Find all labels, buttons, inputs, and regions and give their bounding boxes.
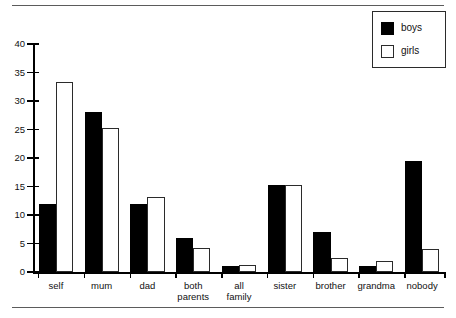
- chart-legend: boys girls: [372, 11, 446, 68]
- legend-item-boys: boys: [381, 19, 436, 37]
- y-axis-tick-label: 40: [3, 39, 25, 49]
- bar-boys-grandma: [359, 266, 376, 272]
- x-axis-tick: [38, 272, 40, 278]
- legend-label-girls: girls: [401, 46, 419, 56]
- x-axis-tick: [404, 272, 406, 278]
- x-axis-tick: [84, 272, 86, 278]
- y-axis-tick-label: 35: [3, 68, 25, 78]
- bar-girls-sister: [285, 185, 302, 272]
- bar-boys-self: [39, 204, 56, 272]
- x-axis-tick: [444, 272, 446, 278]
- y-axis-tick-label-wrap: 20: [0, 153, 25, 163]
- x-axis-label-both-parents: both parents: [170, 280, 216, 302]
- y-axis-tick-label-wrap: 30: [0, 96, 25, 106]
- x-axis-label-self: self: [33, 280, 79, 291]
- legend-label-boys: boys: [401, 23, 422, 33]
- y-axis-tick-label: 30: [3, 96, 25, 106]
- bar-girls-dad: [147, 197, 164, 272]
- y-axis-tick-label: 10: [3, 210, 25, 220]
- bar-girls-both-parents: [193, 248, 210, 272]
- bar-girls-grandma: [376, 261, 393, 272]
- y-axis-tick-label: 0: [3, 267, 25, 277]
- x-axis-tick: [267, 272, 269, 278]
- x-axis-label-all-family: all family: [216, 280, 262, 302]
- top-divider-rule: [12, 5, 444, 6]
- x-axis-label-brother: brother: [308, 280, 354, 291]
- bar-girls-self: [56, 82, 73, 272]
- x-axis-tick: [221, 272, 223, 278]
- x-axis-tick: [358, 272, 360, 278]
- bar-boys-both-parents: [176, 238, 193, 272]
- x-axis-tick: [130, 272, 132, 278]
- x-axis-label-mum: mum: [79, 280, 125, 291]
- y-axis-tick-label-wrap: 0: [0, 267, 25, 277]
- y-axis-tick-label-wrap: 40: [0, 39, 25, 49]
- bar-girls-all-family: [239, 265, 256, 272]
- bar-boys-brother: [313, 232, 330, 272]
- bar-boys-mum: [85, 112, 102, 272]
- y-axis-tick-label: 20: [3, 153, 25, 163]
- bar-boys-dad: [130, 204, 147, 272]
- legend-swatch-girls-icon: [381, 45, 394, 58]
- y-axis-tick-label-wrap: 15: [0, 182, 25, 192]
- bar-chart-figure: 0510152025303540 selfmumdadboth parentsa…: [0, 0, 456, 318]
- bar-boys-all-family: [222, 266, 239, 272]
- x-axis-line: [33, 272, 445, 274]
- y-axis-tick-label: 25: [3, 125, 25, 135]
- y-axis-tick-label-wrap: 10: [0, 210, 25, 220]
- y-axis-tick-label-wrap: 25: [0, 125, 25, 135]
- bar-girls-nobody: [422, 249, 439, 272]
- x-axis-label-grandma: grandma: [353, 280, 399, 291]
- y-axis-tick-label: 15: [3, 182, 25, 192]
- y-axis-tick-label: 5: [3, 239, 25, 249]
- bottom-divider-rule: [12, 307, 444, 308]
- bar-boys-sister: [268, 185, 285, 272]
- legend-item-girls: girls: [381, 42, 436, 60]
- x-axis-tick: [175, 272, 177, 278]
- bar-girls-mum: [102, 128, 119, 272]
- y-axis-tick-label-wrap: 35: [0, 68, 25, 78]
- bars-layer: [33, 44, 445, 272]
- x-axis-tick: [313, 272, 315, 278]
- x-axis-label-sister: sister: [262, 280, 308, 291]
- x-axis-label-dad: dad: [125, 280, 171, 291]
- bar-girls-brother: [331, 258, 348, 272]
- y-axis-tick-label-wrap: 5: [0, 239, 25, 249]
- bar-boys-nobody: [405, 161, 422, 272]
- legend-swatch-boys-icon: [381, 22, 394, 35]
- x-axis-label-nobody: nobody: [399, 280, 445, 291]
